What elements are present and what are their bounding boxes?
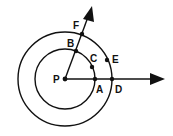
point-B (74, 49, 78, 53)
point-F (80, 32, 84, 36)
label-A: A (96, 84, 103, 95)
label-D: D (115, 84, 122, 95)
label-C: C (90, 53, 97, 64)
point-P (63, 77, 68, 82)
label-E: E (112, 54, 119, 65)
point-E (105, 58, 109, 62)
oblique-ray-arrowhead-icon (83, 6, 94, 22)
label-P: P (53, 74, 60, 85)
label-F: F (73, 20, 79, 31)
point-C (90, 65, 94, 69)
label-B: B (67, 38, 74, 49)
point-D (110, 77, 114, 81)
horizontal-ray-arrowhead-icon (150, 73, 165, 85)
geometry-diagram: P A B C D E F (0, 0, 173, 136)
point-A (93, 77, 97, 81)
